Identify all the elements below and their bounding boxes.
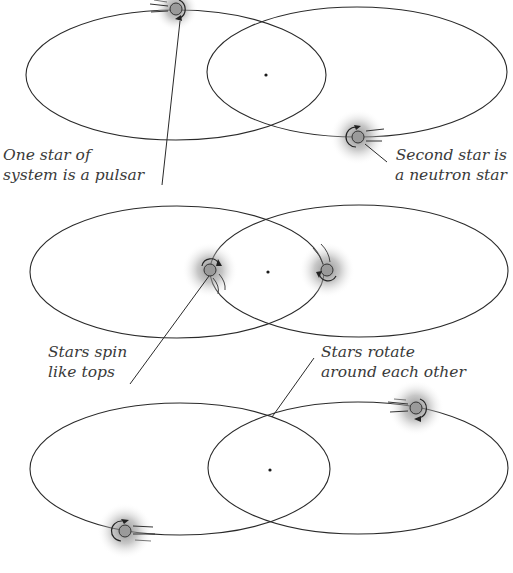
pulsar-star-icon [150, 0, 198, 31]
spinning-star-right-icon [299, 242, 355, 298]
pulsar-leader-line [162, 21, 180, 185]
spinning-star-left-icon [182, 242, 238, 298]
center-of-mass-dot [264, 73, 267, 76]
orbiting-star-left-icon [97, 503, 155, 559]
rotate-annotation-line-1: Stars rotate [321, 342, 466, 362]
rotate-annotation-line-2: around each other [321, 362, 466, 382]
center-of-mass-dot [266, 270, 269, 273]
pulsar-annotation: One star of system is a pulsar [3, 145, 144, 185]
spin-annotation: Stars spin like tops [48, 342, 127, 382]
rotate-annotation: Stars rotate around each other [321, 342, 466, 382]
orbit-left [30, 403, 330, 535]
neutron-star-annotation: Second star is a neutron star [395, 145, 507, 185]
pulsar-annotation-line-1: One star of [3, 145, 144, 165]
neutron-annotation-line-1: Second star is [395, 145, 507, 165]
spin-annotation-line-2: like tops [48, 362, 127, 382]
pulsar-annotation-line-2: system is a pulsar [3, 165, 144, 185]
panel-2 [30, 205, 508, 417]
neutron-annotation-line-2: a neutron star [395, 165, 507, 185]
neutron-star-icon [330, 109, 386, 165]
spin-leader-line [130, 276, 209, 384]
orbit-left [30, 206, 324, 338]
orbit-right [210, 205, 508, 337]
orbiting-star-right-icon [388, 380, 444, 436]
orbit-right [208, 402, 508, 534]
binary-pulsar-diagram [0, 0, 513, 573]
center-of-mass-dot [268, 468, 271, 471]
panel-3 [30, 380, 508, 559]
spin-annotation-line-1: Stars spin [48, 342, 127, 362]
